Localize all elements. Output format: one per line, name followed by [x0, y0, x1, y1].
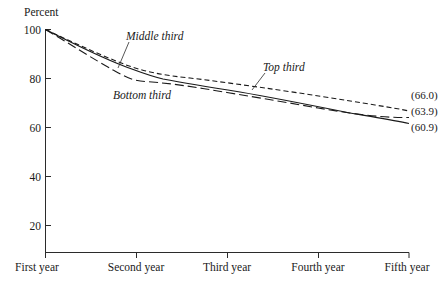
series-line-middle-third [46, 30, 410, 124]
y-tick-label-40: 40 [30, 171, 42, 183]
endpoint-label-top: (66.0) [411, 89, 438, 102]
x-tick-label-third-year: Third year [203, 261, 251, 274]
y-tick-label-80: 80 [30, 73, 42, 85]
endpoint-label-middle: (63.9) [411, 105, 438, 118]
line-chart: Percent 100 80 60 40 20 First year Secon… [0, 0, 447, 283]
x-tick-label-second-year: Second year [108, 261, 165, 274]
leader-line-middle-third [118, 42, 129, 68]
x-tick-label-fourth-year: Fourth year [291, 261, 345, 274]
y-tick-label-100: 100 [24, 24, 42, 36]
x-tick-label-first-year: First year [15, 261, 59, 274]
series-line-top-third [46, 30, 410, 112]
series-label-top-third: Top third [263, 61, 305, 74]
y-tick-label-60: 60 [30, 122, 42, 134]
series-label-middle-third: Middle third [125, 30, 184, 42]
y-axis-title: Percent [24, 6, 59, 18]
x-tick-label-fifth-year: Fifth year [384, 261, 429, 274]
y-tick-label-20: 20 [30, 220, 42, 232]
series-line-bottom-third [46, 30, 410, 118]
endpoint-label-bottom: (60.9) [411, 121, 438, 134]
chart-canvas: Percent 100 80 60 40 20 First year Secon… [0, 0, 447, 283]
series-label-bottom-third: Bottom third [113, 89, 171, 101]
